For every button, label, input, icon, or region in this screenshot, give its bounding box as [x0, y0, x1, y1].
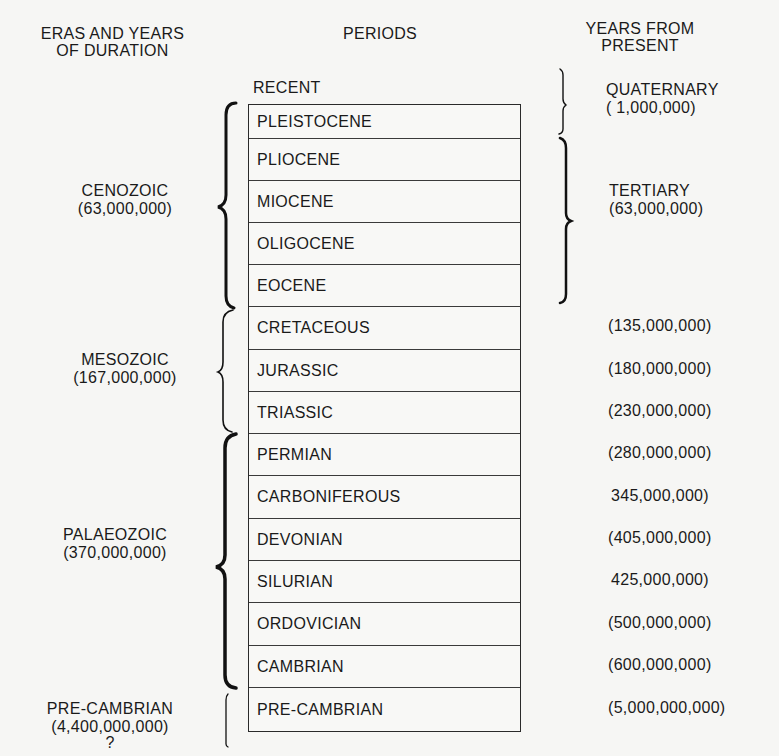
brace-palaeozoic-icon [216, 434, 236, 688]
brace-group [0, 0, 779, 756]
brace-quaternary-icon [559, 69, 566, 134]
brace-precambrian-icon [226, 694, 228, 747]
brace-mesozoic-icon [218, 310, 233, 432]
brace-cenozoic-icon [218, 103, 236, 308]
brace-tertiary-icon [560, 138, 571, 303]
